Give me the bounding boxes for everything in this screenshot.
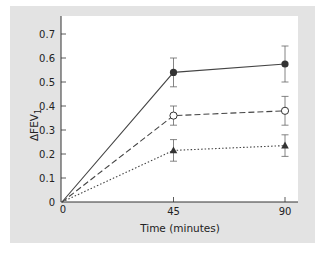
y-tick-label: 0.6 — [39, 53, 55, 64]
open-circle-marker — [170, 112, 177, 119]
x-tick-label: 45 — [167, 206, 180, 217]
y-tick-label: 0.7 — [39, 29, 55, 40]
filled-circle-marker — [281, 60, 288, 67]
y-tick-label: 0.5 — [39, 77, 55, 88]
plot-area — [61, 16, 298, 202]
y-tick-label: 0.2 — [39, 149, 55, 160]
y-tick-label: 0 — [49, 197, 55, 208]
y-tick-label: 0.3 — [39, 125, 55, 136]
x-tick-label: 0 — [60, 204, 66, 215]
y-tick-label: 0.1 — [39, 173, 55, 184]
open-circle-marker — [281, 107, 288, 114]
line-chart: 00.10.20.30.40.50.60.704590 Time (minute… — [0, 0, 327, 256]
filled-circle-marker — [170, 69, 177, 76]
x-axis-title: Time (minutes) — [139, 222, 220, 234]
x-tick-label: 90 — [279, 206, 292, 217]
